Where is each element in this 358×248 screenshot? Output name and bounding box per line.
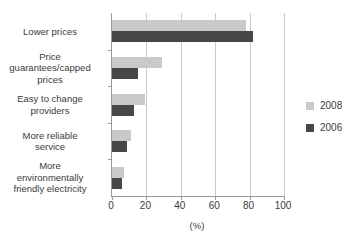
category-label: Easy to changeproviders (0, 93, 100, 116)
bar-chart-figure: Lower pricesPriceguarantees/cappedprices… (0, 0, 358, 248)
bar-2006 (112, 105, 134, 116)
category-label-line: Easy to change (0, 93, 100, 105)
category-label-line: Lower prices (0, 26, 100, 38)
legend-label: 2008 (320, 100, 342, 111)
bar-2008 (112, 167, 124, 178)
category-label-line: prices (0, 74, 100, 86)
category-label-line: environmentally (0, 172, 100, 184)
category-label: Lower prices (0, 26, 100, 38)
bar-2008 (112, 130, 131, 141)
plot-area (111, 13, 284, 197)
bar-group (112, 57, 284, 79)
bar-group (112, 130, 284, 152)
category-label-line: providers (0, 105, 100, 117)
category-axis-tick (108, 86, 112, 87)
x-tick-label: 60 (209, 200, 220, 212)
category-label-line: Price (0, 51, 100, 63)
bar-2006 (112, 68, 138, 79)
category-axis-tick (108, 123, 112, 124)
x-tick-label: 0 (108, 200, 114, 212)
category-axis: Lower pricesPriceguarantees/cappedprices… (0, 13, 104, 196)
bar-2006 (112, 31, 253, 42)
category-label-line: guarantees/capped (0, 62, 100, 74)
category-label-line: More reliable (0, 130, 100, 142)
category-label-line: friendly electricity (0, 183, 100, 195)
category-label-line: More (0, 160, 100, 172)
category-label-line: service (0, 141, 100, 153)
x-axis-tick-labels: 020406080100 (111, 200, 283, 214)
bar-2006 (112, 178, 122, 189)
x-tick-label: 80 (243, 200, 254, 212)
legend-label: 2006 (320, 122, 342, 133)
bar-group (112, 20, 284, 42)
bar-group (112, 94, 284, 116)
legend-swatch-icon (306, 124, 314, 132)
legend-swatch-icon (306, 102, 314, 110)
category-axis-tick (108, 159, 112, 160)
bar-2008 (112, 57, 162, 68)
legend-item[interactable]: 2008 (306, 100, 358, 111)
category-label: Priceguarantees/cappedprices (0, 51, 100, 86)
category-label: Moreenvironmentallyfriendly electricity (0, 160, 100, 195)
x-tick-label: 20 (140, 200, 151, 212)
bar-2008 (112, 20, 246, 31)
gridline (284, 13, 285, 196)
bar-2008 (112, 94, 145, 105)
legend-item[interactable]: 2006 (306, 122, 358, 133)
bar-group (112, 167, 284, 189)
chart-legend: 20082006 (306, 100, 358, 144)
x-tick-label: 40 (174, 200, 185, 212)
bar-2006 (112, 141, 127, 152)
category-label: More reliableservice (0, 130, 100, 153)
x-tick-label: 100 (275, 200, 292, 212)
x-axis-title: (%) (111, 220, 283, 231)
category-axis-tick (108, 50, 112, 51)
